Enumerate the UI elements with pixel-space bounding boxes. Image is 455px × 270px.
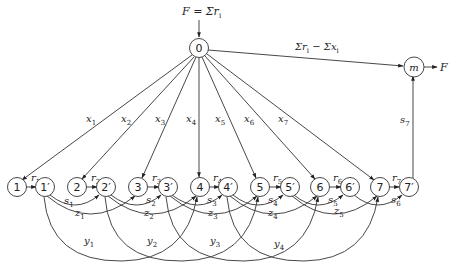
svg-text:6: 6 [317,181,324,194]
svg-text:3: 3 [135,181,142,194]
node-1-prime: 1′ [36,178,55,197]
svg-text:7: 7 [377,181,384,194]
y1-label: y1 [83,235,94,249]
network-flow-diagram: F = Σri Σri − Σxi F s7 x1 x2 x3 x4 x5 x6… [0,0,455,270]
z3-label: z3 [207,207,218,221]
edge-x6 [205,56,315,179]
node-3-prime: 3′ [159,178,178,197]
node-m: m [404,57,424,77]
x1-label: x1 [86,113,96,127]
output-label: F [439,61,448,74]
svg-text:5′: 5′ [285,181,295,194]
edge-y4 [227,197,378,261]
svg-text:7′: 7′ [404,181,414,194]
svg-text:0: 0 [196,42,203,55]
edge-z1 [47,196,135,214]
svg-text:1′: 1′ [40,181,50,194]
x3-label: x3 [155,113,165,127]
node-0: 0 [190,39,209,58]
s3-label: s3 [207,194,217,208]
edge-y1 [44,197,197,261]
y3-label: y3 [209,235,220,249]
node-2: 2 [68,178,87,197]
s4-label: s4 [268,194,278,208]
s1-label: s1 [64,195,74,209]
s7-label: s7 [400,114,410,128]
edge-x1 [22,55,192,180]
node-2-prime: 2′ [97,178,116,197]
x2-label: x2 [121,113,131,127]
node-7-prime: 7′ [400,178,419,197]
z1-label: z1 [74,207,85,221]
y2-label: y2 [146,235,157,249]
node-4-prime: 4′ [219,178,238,197]
edge-x7 [207,54,374,180]
top-flow-label: F = Σri [181,5,222,20]
x7-label: x7 [278,113,288,127]
node-4: 4 [191,178,210,197]
x5-label: x5 [215,113,225,127]
x4-label: x4 [186,113,197,127]
svg-text:4: 4 [197,181,204,194]
edge-0-m-label: Σri − Σxi [294,41,340,55]
svg-text:5: 5 [257,181,264,194]
edge-0-to-m [208,50,403,66]
node-6-prime: 6′ [341,178,360,197]
z4-label: z4 [267,207,278,221]
node-5-prime: 5′ [281,178,300,197]
node-5: 5 [251,178,270,197]
edge-x2 [82,57,194,179]
svg-text:6′: 6′ [345,181,355,194]
svg-text:m: m [409,62,418,73]
z5-label: z5 [333,205,344,219]
svg-text:3′: 3′ [163,181,173,194]
s2-label: s2 [146,194,156,208]
z2-label: z2 [143,207,154,221]
node-7: 7 [371,178,390,197]
svg-text:1: 1 [14,181,21,194]
node-3: 3 [129,178,148,197]
svg-text:2′: 2′ [101,181,111,194]
svg-text:4′: 4′ [223,181,233,194]
node-6: 6 [311,178,330,197]
edge-y2 [105,197,258,261]
y4-label: y4 [273,238,285,252]
svg-text:2: 2 [74,181,81,194]
x6-label: x6 [244,113,255,127]
node-1: 1 [8,178,27,197]
s6-label: s6 [391,194,401,208]
